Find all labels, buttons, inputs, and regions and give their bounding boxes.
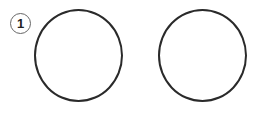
number-badge: 1: [10, 13, 31, 34]
left-circle: [34, 9, 123, 102]
right-circle: [158, 9, 247, 102]
number-label: 1: [17, 17, 24, 30]
